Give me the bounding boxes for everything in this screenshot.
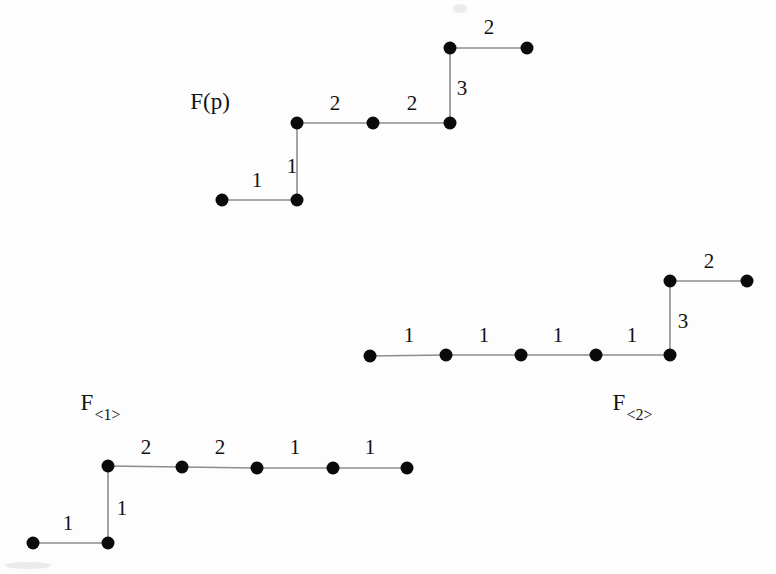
graph-node: [515, 349, 528, 362]
graph-edge: [182, 467, 257, 468]
graph-node: [444, 117, 457, 130]
graph-edge: [370, 355, 446, 356]
scan-artifact: [5, 562, 51, 569]
edge-weight-label: 1: [553, 325, 564, 346]
graph-node: [664, 349, 677, 362]
edge-weight-label: 1: [627, 325, 638, 346]
graph-node: [440, 349, 453, 362]
edge-weight-label: 1: [252, 170, 263, 191]
scan-artifact: [453, 4, 467, 13]
graph-node: [521, 42, 534, 55]
graph-node: [27, 537, 40, 550]
edge-weight-label: 2: [407, 93, 418, 114]
graph-node: [291, 117, 304, 130]
graph-node: [664, 275, 677, 288]
edge-weight-label: 2: [141, 437, 152, 458]
edge-weight-label: 1: [287, 156, 298, 177]
graph-label-subscript: <2>: [626, 406, 652, 423]
graph-label: F<2>: [613, 391, 652, 419]
graph-node: [291, 194, 304, 207]
graph-node: [327, 462, 340, 475]
edge-weight-label: 1: [365, 437, 376, 458]
edge-weight-label: 2: [215, 437, 226, 458]
edge-weight-label: 1: [63, 513, 74, 534]
edge-weight-label: 1: [404, 325, 415, 346]
graph-label-base: F: [81, 390, 94, 415]
graph-node: [102, 537, 115, 550]
figure-svg: [0, 0, 776, 574]
graph-label: F(p): [190, 90, 230, 113]
edge-weight-label: 2: [704, 251, 715, 272]
edge-weight-label: 1: [117, 498, 128, 519]
figure-canvas: 112232F(p)111132F<2>112211F<1>: [0, 0, 776, 574]
graph-label-subscript: <1>: [94, 406, 120, 423]
edge-weight-label: 2: [484, 17, 495, 38]
graph-node: [102, 460, 115, 473]
graph-node: [444, 42, 457, 55]
edge-weight-label: 3: [457, 78, 468, 99]
graph-node: [741, 275, 754, 288]
graph-node: [364, 350, 377, 363]
graph-node: [216, 194, 229, 207]
graph-node: [251, 462, 264, 475]
edges-layer: [33, 48, 747, 543]
graph-node: [176, 461, 189, 474]
graph-label-base: F: [613, 390, 626, 415]
edge-weight-label: 1: [290, 437, 301, 458]
edge-weight-label: 2: [330, 93, 341, 114]
edge-weight-label: 3: [678, 311, 689, 332]
graph-label: F<1>: [81, 391, 120, 419]
graph-node: [367, 117, 380, 130]
edge-weight-label: 1: [479, 325, 490, 346]
graph-edge: [108, 466, 182, 467]
nodes-layer: [27, 42, 754, 550]
graph-node: [401, 462, 414, 475]
graph-node: [590, 349, 603, 362]
